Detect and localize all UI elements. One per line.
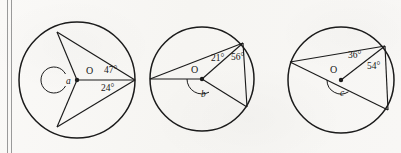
angle-label-24: 24°	[101, 83, 115, 93]
figure-circle-1: O a 47° 24°	[19, 22, 135, 138]
radius-to-bottomleft	[57, 80, 77, 127]
angle-label-36: 36°	[348, 50, 362, 60]
reflex-angle-arc-a	[41, 67, 66, 93]
center-dot	[339, 78, 343, 82]
figure-circle-2: O b 21° 56°	[150, 27, 254, 131]
diagram-page: O a 47° 24° O b 21° 56°	[0, 0, 401, 153]
margin-double-rule	[8, 0, 12, 153]
angle-label-56: 56°	[231, 52, 245, 62]
unknown-angle-label-c: c	[340, 88, 345, 98]
chord-topleft-right	[57, 32, 135, 80]
chord-bottomleft-right	[57, 80, 135, 127]
circle-diagrams-canvas: O a 47° 24° O b 21° 56°	[0, 0, 401, 153]
unknown-angle-label-b: b	[201, 89, 206, 99]
angle-label-47: 47°	[104, 65, 118, 75]
angle-label-21: 21°	[211, 53, 225, 63]
figure-circle-3: O c 36° 54°	[288, 27, 394, 133]
center-dot	[75, 78, 79, 82]
radius-to-topleft	[57, 32, 77, 80]
radius-to-bottomright	[202, 79, 247, 107]
angle-label-54: 54°	[367, 61, 381, 71]
unknown-angle-label-a: a	[66, 76, 71, 86]
center-label-O: O	[191, 64, 198, 75]
chord-left-topright	[290, 46, 385, 62]
center-label-O: O	[330, 64, 337, 75]
center-dot	[200, 77, 204, 81]
center-label-O: O	[86, 65, 93, 76]
